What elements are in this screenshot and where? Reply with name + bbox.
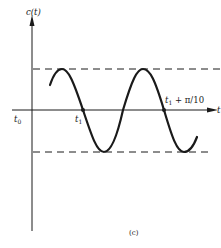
response-diagram: c(t) t t0 t1 t1 + π/10 (c): [0, 0, 221, 248]
origin-label: t0: [14, 114, 21, 125]
y-axis-label: c(t): [26, 7, 41, 17]
x-axis-label: t: [217, 105, 221, 115]
t1-pi-label: t1 + π/10: [165, 95, 204, 106]
t1-marker: [81, 108, 85, 112]
t1-label: t1: [75, 114, 82, 125]
t1-pi-marker: [162, 108, 166, 112]
figure-caption: (c): [129, 229, 139, 237]
